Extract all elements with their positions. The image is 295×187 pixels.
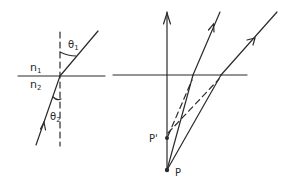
refracted-ray <box>60 31 98 76</box>
label-n1: n1 <box>30 61 41 75</box>
point-p <box>165 168 169 172</box>
virtual-ray2-dashed <box>168 79 219 133</box>
ray2-underwater <box>167 75 221 170</box>
ray1-arrow-icon <box>209 24 215 32</box>
ray1-underwater <box>167 75 193 170</box>
label-n2: n2 <box>30 78 41 92</box>
label-theta1: θ1 <box>68 39 79 52</box>
refraction-diagram: n1 n2 θ1 θ2 P' P <box>0 0 295 187</box>
point-p-prime <box>165 136 169 140</box>
diagram-canvas: n1 n2 θ1 θ2 P' P <box>0 0 295 187</box>
theta1-arc <box>60 52 76 56</box>
label-p: P <box>175 167 181 178</box>
label-theta2: θ2 <box>50 111 61 124</box>
ray1-refracted <box>193 12 220 75</box>
ray2-refracted <box>221 12 277 75</box>
virtual-ray1-dashed <box>168 80 192 136</box>
label-p-prime: P' <box>149 133 158 144</box>
